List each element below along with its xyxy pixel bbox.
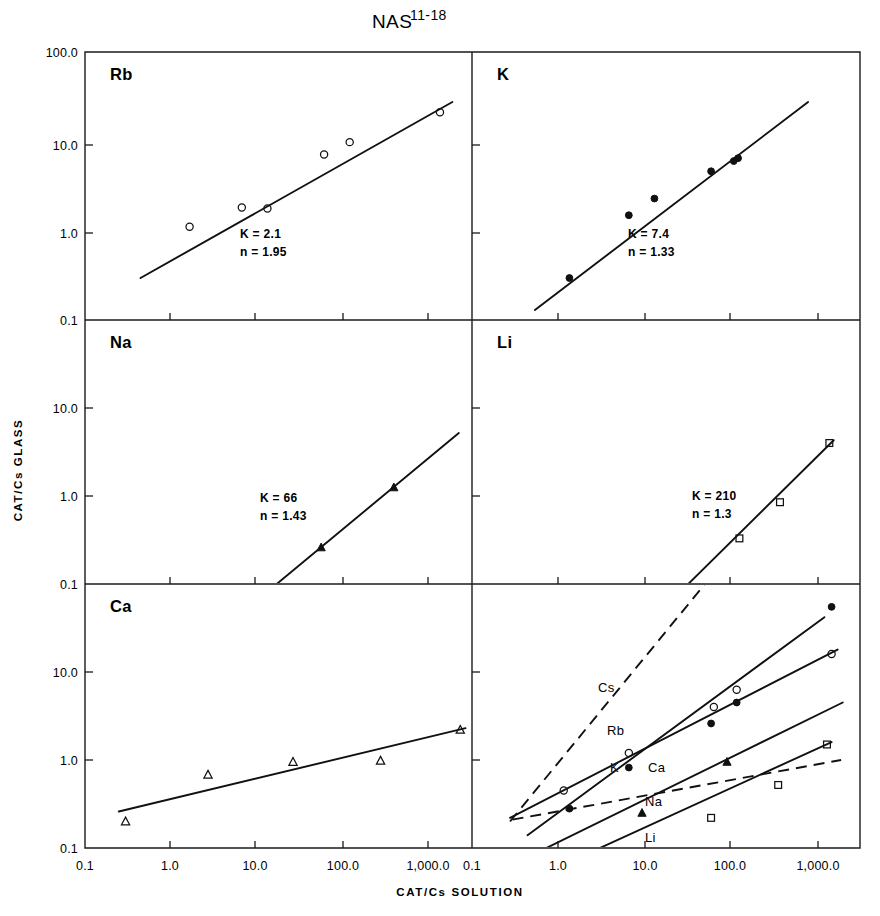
data-point-rb xyxy=(238,204,245,211)
data-point-rb xyxy=(186,223,193,230)
data-point-li xyxy=(708,814,715,821)
x-axis-title: CAT/Cs SOLUTION xyxy=(396,886,523,898)
fit-line-ca-path xyxy=(119,728,466,811)
y-tick-label: 100.0 xyxy=(46,46,78,60)
data-point-li xyxy=(777,499,784,506)
figure-root: NAS 11-18 CAT/Cs GLASS CAT/Cs SOLUTION 1… xyxy=(0,0,880,916)
x-tick-label: 100.0 xyxy=(327,859,359,873)
data-point-ca xyxy=(121,817,129,825)
curve-label-li: Li xyxy=(645,830,656,845)
panel-annotation-k-na: K = 66 xyxy=(260,491,298,505)
x-tick-label: 1,000.0 xyxy=(406,859,449,873)
data-point-ca xyxy=(204,770,212,778)
figure-title-main: NAS xyxy=(372,11,412,32)
curve-rb-path xyxy=(510,650,838,818)
panel-annotation-n-li: n = 1.3 xyxy=(692,507,732,521)
figure-title-superscript: 11-18 xyxy=(410,7,447,23)
x-tick-label: 0.1 xyxy=(76,859,94,873)
curve-k-path xyxy=(528,617,825,835)
data-point-na xyxy=(638,809,646,817)
data-point-k xyxy=(708,168,715,175)
data-point-ca xyxy=(289,758,297,766)
data-point-k xyxy=(828,603,835,610)
y-axis-ticks-left: 100.0 10.0 1.0 0.1 10.0 1.0 0.1 10.0 1.0… xyxy=(46,46,93,856)
panel-label-li: Li xyxy=(497,333,512,351)
data-point-k xyxy=(651,195,658,202)
x-tick-label: 1.0 xyxy=(161,859,179,873)
data-point-k xyxy=(708,720,715,727)
fit-line-k xyxy=(535,102,808,310)
panel-label-ca: Ca xyxy=(110,597,132,615)
data-point-k xyxy=(735,155,742,162)
data-point-rb xyxy=(710,703,717,710)
x-tick-label: 100.0 xyxy=(714,859,746,873)
x-tick-label: 1,000.0 xyxy=(796,859,839,873)
y-tick-label: 10.0 xyxy=(53,666,78,680)
data-point-rb xyxy=(346,139,353,146)
y-axis-title: CAT/Cs GLASS xyxy=(12,419,24,522)
x-tick-label: 0.1 xyxy=(463,859,481,873)
panel-annotation-k-li: K = 210 xyxy=(692,489,736,503)
x-tick-label: 10.0 xyxy=(242,859,267,873)
fit-line-k-path xyxy=(535,102,808,310)
data-point-rb xyxy=(733,686,740,693)
y-tick-label: 1.0 xyxy=(60,227,78,241)
data-point-k xyxy=(733,699,740,706)
data-point-k xyxy=(625,212,632,219)
curve-li-path xyxy=(600,742,832,848)
curve-cs-path xyxy=(510,584,705,822)
x-tick-label: 10.0 xyxy=(632,859,657,873)
data-point-rb xyxy=(625,749,632,756)
panel-annotation-n-k: n = 1.33 xyxy=(628,245,675,259)
panel-label-rb: Rb xyxy=(110,65,133,83)
curve-k xyxy=(528,617,825,835)
data-point-li xyxy=(775,782,782,789)
data-point-k xyxy=(566,275,573,282)
panel-annotation-k-rb: K = 2.1 xyxy=(240,227,281,241)
x-tick-label: 1.0 xyxy=(549,859,567,873)
fit-line-rb xyxy=(141,102,453,278)
x-axis-tick-labels: 0.1 1.0 10.0 100.0 1,000.0 0.1 1.0 10.0 … xyxy=(76,859,840,873)
y-tick-label: 1.0 xyxy=(60,490,78,504)
x-axis-ticks xyxy=(170,313,818,848)
combined-panel-labels: Cs Rb K Ca Na Li xyxy=(598,680,666,845)
curve-label-rb: Rb xyxy=(607,723,624,738)
y-axis-ticks-right xyxy=(472,145,480,760)
y-tick-label: 0.1 xyxy=(60,578,78,592)
curve-cs xyxy=(510,584,705,822)
y-tick-label: 0.1 xyxy=(60,314,78,328)
y-tick-label: 10.0 xyxy=(53,402,78,416)
panel-annotation-n-na: n = 1.43 xyxy=(260,509,307,523)
y-tick-label: 0.1 xyxy=(60,842,78,856)
curve-li xyxy=(600,742,832,848)
fit-line-ca xyxy=(119,728,466,811)
curve-label-cs: Cs xyxy=(598,680,615,695)
curve-label-ca: Ca xyxy=(648,760,666,775)
panel-label-k: K xyxy=(497,65,509,83)
curve-rb xyxy=(510,650,838,818)
data-point-rb xyxy=(320,151,327,158)
panel-label-na: Na xyxy=(110,333,132,351)
scientific-figure: NAS 11-18 CAT/Cs GLASS CAT/Cs SOLUTION 1… xyxy=(0,0,880,916)
y-tick-label: 10.0 xyxy=(53,139,78,153)
data-point-ca xyxy=(376,756,384,764)
panel-annotation-n-rb: n = 1.95 xyxy=(240,245,287,259)
y-tick-label: 1.0 xyxy=(60,754,78,768)
series-layer xyxy=(119,102,843,848)
data-point-k xyxy=(625,764,632,771)
panel-frame xyxy=(85,52,860,848)
fit-line-rb-path xyxy=(141,102,453,278)
